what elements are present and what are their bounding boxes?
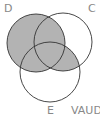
label-c: C (88, 3, 96, 14)
label-e: E (47, 105, 54, 114)
label-d: D (4, 3, 12, 14)
venn-diagram (0, 0, 100, 114)
caption: VAUD (71, 105, 100, 114)
